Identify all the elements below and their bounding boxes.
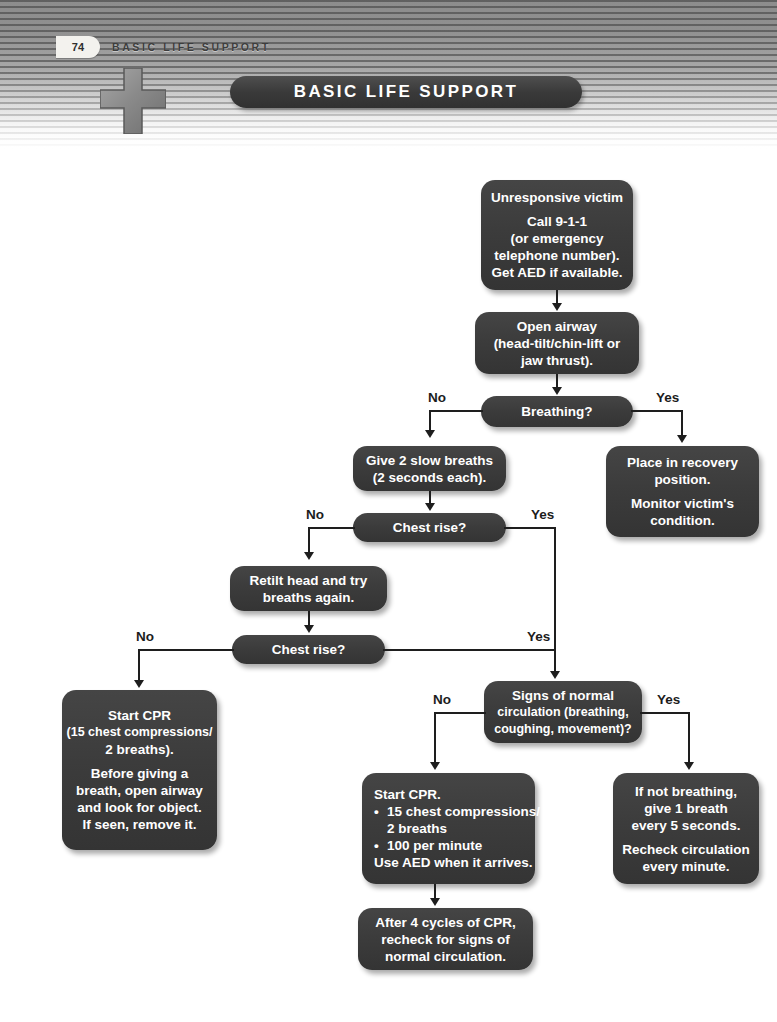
arrowhead	[677, 435, 687, 443]
node-line: Unresponsive victim	[491, 189, 623, 206]
bullet-text: 100 per minute	[387, 838, 482, 853]
node-line: (15 chest compressions/	[67, 724, 213, 741]
edge-label-chest-rise-2-no: No	[136, 629, 154, 644]
node-line: telephone number).	[494, 247, 619, 264]
edge-label-breathing-yes: Yes	[656, 390, 679, 405]
connector-circulation-yes-down	[688, 712, 690, 764]
arrowhead	[425, 430, 435, 438]
node-start-cpr-obstructed-airway: Start CPR (15 chest compressions/ 2 brea…	[62, 690, 217, 850]
edge-label-circulation-no: No	[433, 692, 451, 707]
arrowhead	[304, 625, 314, 633]
node-breathing-decision: Breathing?	[481, 396, 633, 427]
arrowhead	[304, 552, 314, 560]
node-line: breaths again.	[263, 589, 355, 606]
node-line: and look for object.	[77, 799, 202, 816]
node-line: normal circulation.	[385, 948, 506, 965]
connector-breathing-no	[429, 410, 483, 412]
arrowhead	[430, 762, 440, 770]
edge-label-chest-rise-1-no: No	[306, 507, 324, 522]
node-line: every minute.	[642, 858, 729, 875]
node-line: Place in recovery	[627, 454, 738, 471]
node-line: Start CPR	[108, 707, 171, 724]
node-line: Chest rise?	[272, 641, 346, 658]
node-line: 2 breaths).	[105, 741, 173, 758]
node-line: recheck for signs of	[381, 931, 509, 948]
node-line: breath, open airway	[76, 782, 203, 799]
node-line: (or emergency	[510, 230, 603, 247]
node-line: Signs of normal	[512, 687, 614, 704]
edge-label-circulation-yes: Yes	[657, 692, 680, 707]
node-line: Give 2 slow breaths	[366, 452, 493, 469]
node-line: (head-tilt/chin-lift or	[494, 335, 621, 352]
node-line: (2 seconds each).	[373, 469, 486, 486]
node-line: Open airway	[517, 318, 597, 335]
bullet-dot-icon: •	[374, 837, 379, 854]
connector-chest-rise-1-no-down	[308, 527, 310, 554]
node-line: coughing, movement)?	[494, 721, 632, 738]
node-line: Use AED when it arrives.	[374, 854, 533, 871]
bullet-item: •15 chest compressions/	[374, 803, 540, 820]
arrowhead	[550, 671, 560, 679]
connector-circulation-no	[434, 712, 486, 714]
node-if-not-breathing: If not breathing, give 1 breath every 5 …	[613, 773, 759, 884]
node-chest-rise-decision-1: Chest rise?	[353, 513, 506, 542]
arrowhead	[425, 503, 435, 511]
node-line: If not breathing,	[635, 783, 737, 800]
connector-breathing-no-down	[429, 410, 431, 432]
node-line: Recheck circulation	[622, 841, 750, 858]
arrowhead	[552, 387, 562, 395]
bullet-item: •100 per minute	[374, 837, 482, 854]
connector-circulation-no-down	[434, 712, 436, 764]
node-line: Start CPR.	[374, 786, 441, 803]
connector-chest-rise-1-yes-down	[554, 527, 556, 673]
node-line: If seen, remove it.	[82, 816, 196, 833]
bullet-continuation: 2 breaths	[374, 820, 447, 837]
node-line: After 4 cycles of CPR,	[375, 914, 515, 931]
arrowhead	[552, 303, 562, 311]
node-line: Chest rise?	[393, 519, 467, 536]
node-place-in-recovery-position: Place in recovery position. Monitor vict…	[606, 446, 759, 537]
node-start-cpr: Start CPR. •15 chest compressions/ 2 bre…	[362, 773, 535, 884]
node-chest-rise-decision-2: Chest rise?	[232, 635, 385, 664]
flowchart: Unresponsive victim Call 9-1-1 (or emerg…	[0, 0, 777, 1022]
arrowhead	[684, 762, 694, 770]
node-unresponsive-victim: Unresponsive victim Call 9-1-1 (or emerg…	[481, 180, 633, 290]
connector-chest-rise-2-no	[138, 649, 234, 651]
node-line: Monitor victim's	[631, 495, 734, 512]
bullet-text: 15 chest compressions/	[387, 804, 540, 819]
node-line: give 1 breath	[644, 800, 727, 817]
connector-breathing-yes-down	[681, 410, 683, 437]
node-line: condition.	[650, 512, 715, 529]
node-line: jaw thrust).	[521, 352, 593, 369]
edge-label-breathing-no: No	[428, 390, 446, 405]
connector-chest-rise-1-yes	[504, 527, 556, 529]
node-after-4-cycles: After 4 cycles of CPR, recheck for signs…	[358, 908, 533, 970]
bullet-dot-icon: •	[374, 803, 379, 820]
node-line: Retilt head and try	[250, 572, 368, 589]
node-line: Before giving a	[91, 765, 189, 782]
connector-circulation-yes	[640, 712, 690, 714]
arrowhead	[134, 680, 144, 688]
connector-chest-rise-2-yes	[383, 649, 556, 651]
connector-chest-rise-1-no	[308, 527, 355, 529]
node-line: circulation (breathing,	[497, 704, 628, 721]
node-signs-of-normal-circulation-decision: Signs of normal circulation (breathing, …	[484, 681, 642, 743]
node-retilt-head: Retilt head and try breaths again.	[230, 566, 387, 611]
page-canvas: 74 BASIC LIFE SUPPORT BASIC LIFE SUPPORT…	[0, 0, 777, 1022]
node-line: Breathing?	[521, 403, 592, 420]
arrowhead	[430, 898, 440, 906]
edge-label-chest-rise-1-yes: Yes	[531, 507, 554, 522]
connector-breathing-yes	[631, 410, 683, 412]
node-line: position.	[654, 471, 710, 488]
node-give-2-slow-breaths: Give 2 slow breaths (2 seconds each).	[353, 446, 506, 491]
node-line: every 5 seconds.	[632, 817, 741, 834]
node-open-airway: Open airway (head-tilt/chin-lift or jaw …	[475, 312, 639, 374]
connector-chest-rise-2-no-down	[138, 649, 140, 682]
node-line: Call 9-1-1	[527, 213, 587, 230]
edge-label-chest-rise-2-yes: Yes	[527, 629, 550, 644]
node-line: Get AED if available.	[492, 264, 623, 281]
